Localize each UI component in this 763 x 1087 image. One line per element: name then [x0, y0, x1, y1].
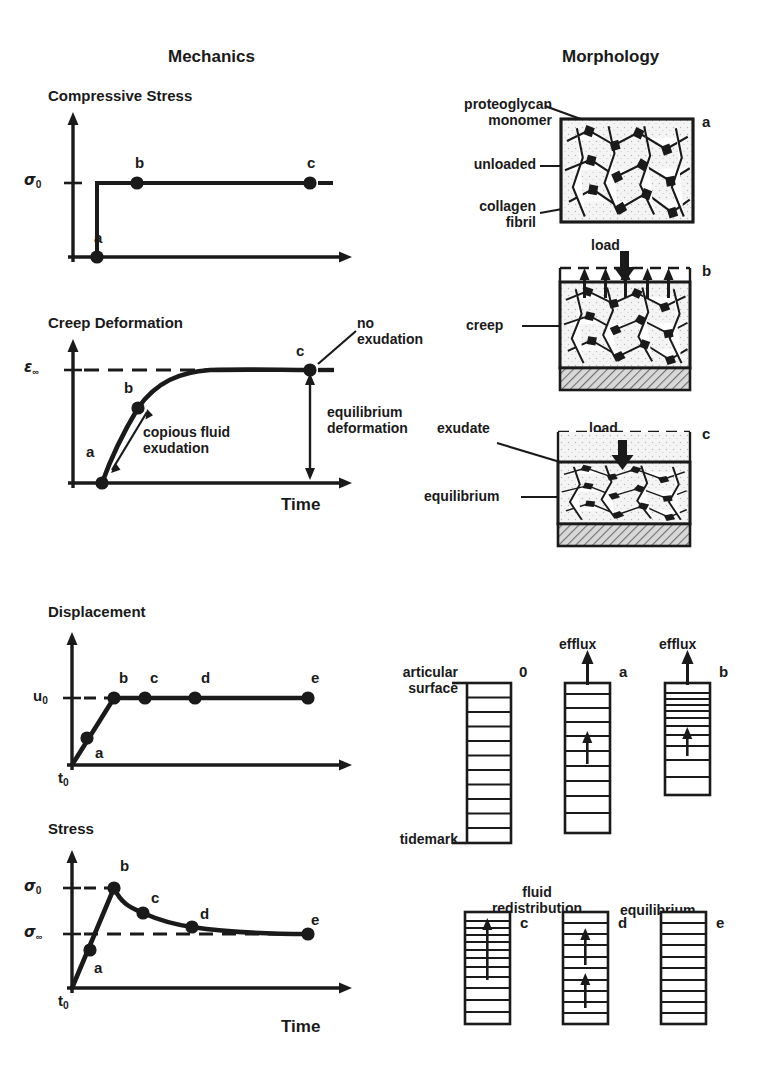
column-c — [465, 912, 510, 1024]
column-a — [565, 650, 610, 833]
column-d — [563, 912, 608, 1024]
column-b-efflux-arrow — [682, 650, 694, 685]
column-0 — [467, 683, 511, 843]
column-a-efflux-arrow — [582, 650, 594, 685]
figure-root: Mechanics Morphology Compressive Stress … — [0, 0, 763, 1087]
column-b — [665, 650, 710, 795]
column-diagrams — [0, 0, 763, 1087]
column-e — [661, 912, 706, 1024]
